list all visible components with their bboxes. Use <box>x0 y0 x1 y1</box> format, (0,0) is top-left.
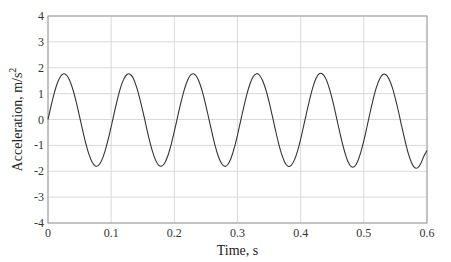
y-tick-label: 1 <box>38 87 44 101</box>
y-tick-label: 3 <box>38 35 44 49</box>
x-axis-label: Time, s <box>217 243 259 258</box>
x-tick-label: 0.3 <box>230 226 245 240</box>
acceleration-time-chart: 43210-1-2-3-4 00.10.20.30.40.50.6 Time, … <box>0 0 451 262</box>
x-tick-label: 0.5 <box>356 226 371 240</box>
x-axis-tick-labels: 00.10.20.30.40.50.6 <box>45 226 435 240</box>
x-tick-label: 0.2 <box>167 226 182 240</box>
grid-lines <box>48 16 427 223</box>
x-tick-label: 0.6 <box>420 226 435 240</box>
x-tick-label: 0 <box>45 226 51 240</box>
y-axis-label: Acceleration, m/s2 <box>7 68 25 172</box>
y-tick-label: -3 <box>34 190 44 204</box>
y-tick-label: 0 <box>38 113 44 127</box>
x-tick-label: 0.4 <box>293 226 308 240</box>
y-axis-label-text: Acceleration, m/s <box>10 73 25 172</box>
y-axis-tick-labels: 43210-1-2-3-4 <box>34 9 44 230</box>
y-tick-label: -4 <box>34 216 44 230</box>
y-tick-label: 2 <box>38 61 44 75</box>
x-tick-label: 0.1 <box>104 226 119 240</box>
y-tick-label: 4 <box>38 9 44 23</box>
y-tick-label: -1 <box>34 138 44 152</box>
y-axis-label-superscript: 2 <box>7 68 18 73</box>
y-tick-label: -2 <box>34 164 44 178</box>
